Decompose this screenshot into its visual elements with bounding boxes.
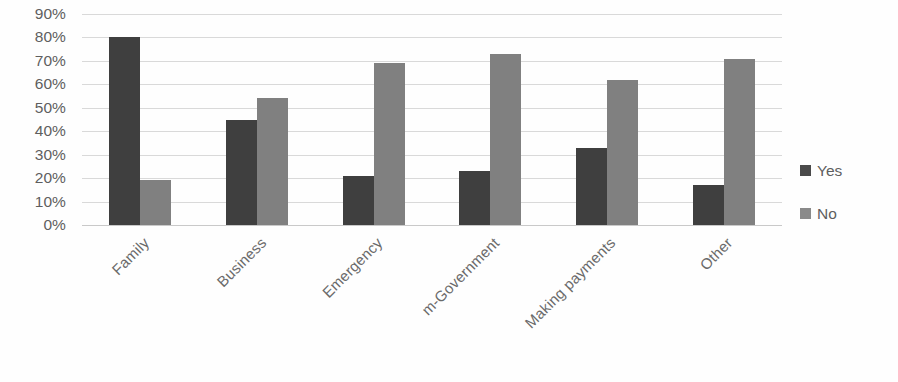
legend-swatch-icon: [800, 208, 811, 219]
x-axis-category: Other: [665, 228, 782, 328]
y-axis: 90%80%70%60%50%40%30%20%10%0%: [0, 14, 74, 225]
bar-yes: [343, 176, 374, 225]
x-axis-tick-label: Family: [108, 234, 152, 278]
legend-label: No: [817, 206, 837, 222]
y-axis-tick-label: 60%: [0, 75, 66, 93]
y-axis-tick-label: 90%: [0, 5, 66, 23]
y-axis-tick-label: 70%: [0, 52, 66, 70]
bar-group: [549, 14, 666, 225]
x-axis-tick-label: Other: [696, 234, 735, 273]
bar-group: [315, 14, 432, 225]
x-axis: FamilyBusinessEmergencym-GovernmentMakin…: [82, 228, 782, 328]
bar-no: [490, 54, 521, 225]
legend-item-yes[interactable]: Yes: [800, 163, 892, 179]
y-axis-tick-label: 30%: [0, 146, 66, 164]
bar-chart: 90%80%70%60%50%40%30%20%10%0% FamilyBusi…: [0, 0, 898, 382]
legend-label: Yes: [817, 163, 842, 179]
x-axis-category: Making payments: [549, 228, 666, 328]
x-axis-category: Business: [199, 228, 316, 328]
y-axis-tick-label: 40%: [0, 122, 66, 140]
bar-yes: [226, 120, 257, 226]
axis-baseline: [82, 225, 782, 226]
y-axis-tick-label: 50%: [0, 99, 66, 117]
y-axis-tick-label: 20%: [0, 169, 66, 187]
bar-yes: [109, 37, 140, 225]
bar-no: [607, 80, 638, 225]
bar-group: [665, 14, 782, 225]
x-axis-category: Family: [82, 228, 199, 328]
bar-no: [257, 98, 288, 225]
bar-no: [374, 63, 405, 225]
y-axis-tick-label: 0%: [0, 216, 66, 234]
bars-layer: [82, 14, 782, 225]
legend-swatch-icon: [800, 165, 811, 176]
x-axis-category: Emergency: [315, 228, 432, 328]
x-axis-tick-label: Business: [213, 234, 269, 290]
bar-no: [724, 59, 755, 225]
bar-group: [199, 14, 316, 225]
bar-yes: [576, 148, 607, 225]
chart-legend: YesNo: [800, 163, 892, 248]
legend-item-no[interactable]: No: [800, 206, 892, 222]
bar-no: [140, 180, 171, 225]
y-axis-tick-label: 80%: [0, 28, 66, 46]
plot-area: [82, 14, 782, 225]
bar-yes: [693, 185, 724, 225]
bar-group: [82, 14, 199, 225]
bar-group: [432, 14, 549, 225]
bar-yes: [459, 171, 490, 225]
x-axis-tick-label: Emergency: [319, 234, 386, 301]
y-axis-tick-label: 10%: [0, 193, 66, 211]
